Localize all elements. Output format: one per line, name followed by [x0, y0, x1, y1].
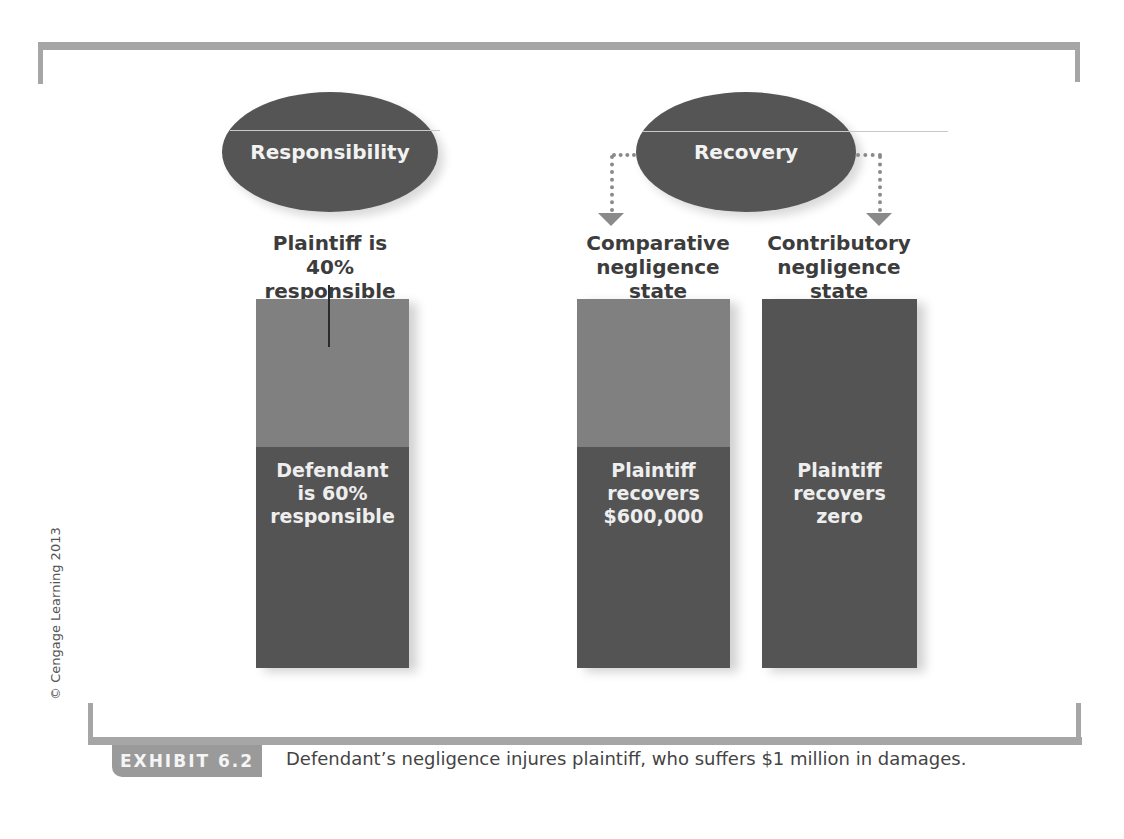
dotted-connector-left-vertical — [610, 155, 614, 212]
exhibit-label: EXHIBIT 6.2 — [120, 751, 254, 771]
defendant-share-segment: Defendant is 60% responsible — [256, 447, 409, 668]
segment-text: Plaintiff — [762, 459, 917, 482]
segment-text: $600,000 — [577, 505, 730, 528]
frame-top-left-tick — [38, 42, 43, 84]
label-line: negligence state — [746, 255, 932, 303]
dotted-connector-right-vertical — [878, 155, 882, 212]
frame-bottom-rule — [88, 737, 1082, 745]
arrow-down-icon — [598, 213, 624, 226]
segment-text: Defendant — [256, 459, 409, 482]
segment-text: recovers — [762, 482, 917, 505]
comparative-label: Comparative negligence state — [568, 231, 748, 303]
frame-top-rule — [38, 42, 1080, 50]
responsibility-header: Responsibility — [250, 140, 409, 164]
exhibit-caption: Defendant’s negligence injures plaintiff… — [286, 746, 1006, 772]
label-line: Comparative — [568, 231, 748, 255]
copyright-notice: © Cengage Learning 2013 — [48, 527, 63, 700]
responsibility-ellipse: Responsibility — [222, 92, 438, 212]
zero-recovery-segment: Plaintiff recovers zero — [762, 299, 917, 668]
label-line: negligence state — [568, 255, 748, 303]
ellipse-highlight-line — [642, 131, 948, 132]
dotted-connector-left — [612, 153, 636, 157]
responsibility-bar: Defendant is 60% responsible — [256, 299, 409, 668]
segment-text: responsible — [256, 505, 409, 528]
label-line: 40% responsible — [262, 255, 398, 303]
frame-bottom-left-tick — [88, 703, 93, 745]
plaintiff-fault-segment — [577, 299, 730, 447]
comparative-bar: Plaintiff recovers $600,000 — [577, 299, 730, 668]
responsibility-label: Plaintiff is 40% responsible — [262, 231, 398, 303]
contributory-label: Contributory negligence state — [746, 231, 932, 303]
plaintiff-share-segment — [256, 299, 409, 447]
segment-text: recovers — [577, 482, 730, 505]
label-line: Plaintiff is — [262, 231, 398, 255]
pointer-line — [328, 285, 330, 347]
recovery-ellipse: Recovery — [636, 92, 856, 212]
frame-top-right-tick — [1075, 42, 1080, 82]
recovery-segment: Plaintiff recovers $600,000 — [577, 447, 730, 668]
frame-bottom-right-tick — [1076, 703, 1081, 745]
label-line: Contributory — [746, 231, 932, 255]
segment-text: zero — [762, 505, 917, 528]
exhibit-tab: EXHIBIT 6.2 — [112, 745, 262, 777]
contributory-bar: Plaintiff recovers zero — [762, 299, 917, 668]
ellipse-highlight-line — [230, 130, 440, 131]
segment-text: is 60% — [256, 482, 409, 505]
arrow-down-icon — [866, 213, 892, 226]
recovery-header: Recovery — [694, 140, 798, 164]
segment-text: Plaintiff — [577, 459, 730, 482]
